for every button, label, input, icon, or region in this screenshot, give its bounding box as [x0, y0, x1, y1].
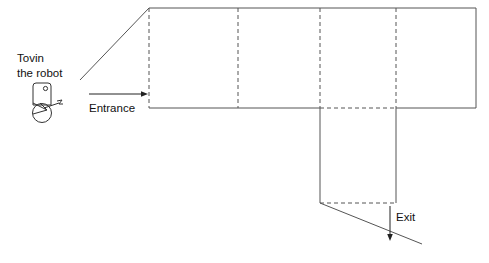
entrance-diagonal-wall [80, 8, 149, 80]
arrow-down-icon [387, 206, 393, 241]
figure-canvas: Tovin the robot Entrance Exit [0, 0, 489, 263]
floor-plan-drawing [0, 0, 489, 263]
exit-label: Exit [396, 210, 415, 225]
arrow-right-icon [89, 91, 148, 97]
exit-arrow-head [387, 234, 393, 241]
entrance-arrow-head [141, 91, 148, 97]
robot-label: Tovin the robot [17, 51, 62, 80]
robot-eye [43, 86, 47, 90]
robot-icon [33, 83, 64, 123]
robot-label-line2: the robot [17, 66, 62, 81]
robot-head [33, 83, 51, 105]
entrance-label: Entrance [89, 101, 135, 116]
robot-label-line1: Tovin [17, 51, 62, 66]
